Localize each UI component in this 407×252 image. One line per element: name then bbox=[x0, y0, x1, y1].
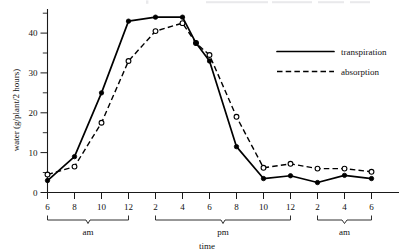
datapoint-absorption bbox=[207, 53, 212, 58]
datapoint-absorption bbox=[45, 172, 50, 177]
datapoint-transpiration bbox=[126, 19, 130, 23]
period-label-am-next: am bbox=[339, 227, 350, 237]
x-ticklabel-0: 6 bbox=[45, 202, 50, 212]
datapoint-transpiration bbox=[194, 41, 198, 45]
datapoint-absorption bbox=[153, 29, 158, 34]
datapoint-transpiration bbox=[342, 173, 346, 177]
legend-label-transpiration: transpiration bbox=[341, 47, 387, 57]
x-ticklabel-10: 2 bbox=[315, 202, 320, 212]
datapoint-transpiration bbox=[72, 154, 76, 158]
datapoint-transpiration bbox=[261, 176, 265, 180]
chart-figure: 0 10 20 30 40 water (g/plant/2 hours) 6 bbox=[0, 0, 407, 252]
chart-background bbox=[0, 0, 407, 252]
datapoint-transpiration bbox=[99, 91, 103, 95]
period-label-am-morning: am bbox=[83, 227, 94, 237]
x-ticklabel-5: 4 bbox=[180, 202, 185, 212]
y-ticklabel-20: 20 bbox=[29, 108, 39, 118]
y-ticklabel-0: 0 bbox=[33, 188, 38, 198]
x-ticklabel-7: 8 bbox=[234, 202, 239, 212]
datapoint-absorption bbox=[126, 59, 131, 64]
y-ticklabel-30: 30 bbox=[29, 68, 39, 78]
x-ticklabel-2: 10 bbox=[97, 202, 107, 212]
x-ticklabel-12: 6 bbox=[369, 202, 374, 212]
x-ticklabel-3: 12 bbox=[124, 202, 133, 212]
x-ticklabel-6: 6 bbox=[207, 202, 212, 212]
datapoint-transpiration bbox=[234, 144, 238, 148]
datapoint-transpiration bbox=[180, 15, 184, 19]
datapoint-absorption bbox=[369, 169, 374, 174]
datapoint-transpiration bbox=[369, 176, 373, 180]
datapoint-absorption bbox=[288, 161, 293, 166]
x-ticklabel-1: 8 bbox=[72, 202, 77, 212]
x-ticklabel-9: 12 bbox=[286, 202, 295, 212]
y-axis-title: water (g/plant/2 hours) bbox=[11, 69, 21, 151]
datapoint-absorption bbox=[342, 166, 347, 171]
x-ticklabel-4: 2 bbox=[153, 202, 158, 212]
datapoint-transpiration bbox=[288, 174, 292, 178]
datapoint-transpiration bbox=[153, 15, 157, 19]
y-ticklabel-10: 10 bbox=[29, 148, 39, 158]
y-ticklabel-40: 40 bbox=[29, 28, 39, 38]
datapoint-transpiration bbox=[45, 178, 49, 182]
datapoint-absorption bbox=[99, 120, 104, 125]
x-ticklabel-8: 10 bbox=[259, 202, 269, 212]
datapoint-absorption bbox=[234, 114, 239, 119]
datapoint-absorption bbox=[261, 165, 266, 170]
datapoint-absorption bbox=[72, 164, 77, 169]
period-label-pm: pm bbox=[217, 227, 229, 237]
datapoint-transpiration bbox=[207, 59, 211, 63]
transpiration-absorption-line-chart: 0 10 20 30 40 water (g/plant/2 hours) 6 bbox=[0, 0, 407, 252]
legend-label-absorption: absorption bbox=[341, 67, 379, 77]
datapoint-absorption bbox=[315, 166, 320, 171]
x-axis-title: time bbox=[199, 241, 215, 251]
datapoint-transpiration bbox=[315, 180, 319, 184]
x-ticklabel-11: 4 bbox=[342, 202, 347, 212]
